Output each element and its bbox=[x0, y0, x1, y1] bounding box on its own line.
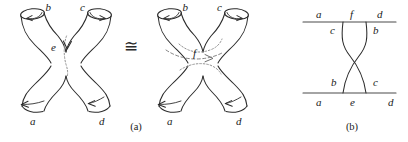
label-d-left-surface: d bbox=[99, 115, 105, 127]
leg-bottom-left-wall-outer bbox=[22, 66, 51, 106]
rim-bottom-left bbox=[22, 106, 43, 112]
rim-bottom-right bbox=[89, 106, 110, 112]
caption-b: (b) bbox=[346, 121, 359, 133]
figure-canvas: e b c a d ≅ bbox=[0, 0, 408, 142]
leg2-bottom-right-wall-inner bbox=[203, 76, 225, 111]
leg-top-right-wall-outer bbox=[81, 16, 111, 63]
label-a-top: a bbox=[316, 8, 322, 20]
leg2-bottom-right-wall-outer bbox=[218, 66, 247, 106]
label-e-bottom: e bbox=[350, 96, 355, 108]
label-b-left-surface: b bbox=[46, 1, 52, 13]
leg-top-left-wall-outer bbox=[21, 16, 51, 63]
label-e-left-surface: e bbox=[51, 41, 56, 53]
label-a-bottom: a bbox=[316, 96, 322, 108]
label-f-right-surface: f bbox=[193, 47, 198, 59]
leg2-bottom-left-wall-outer bbox=[159, 66, 188, 106]
surface-left: e b c a d bbox=[20, 1, 112, 127]
cut-curve-e bbox=[64, 36, 67, 76]
label-d-top: d bbox=[377, 8, 383, 20]
rim2-bottom-left bbox=[159, 106, 180, 112]
label-c-above-bottom: c bbox=[373, 76, 378, 88]
label-b-above-bottom: b bbox=[331, 76, 337, 88]
leg2-top-right-wall-outer bbox=[218, 16, 248, 63]
leg-bottom-right-wall-outer bbox=[81, 66, 110, 106]
leg2-top-left-wall-outer bbox=[158, 16, 188, 63]
label-a-right-surface: a bbox=[167, 115, 173, 127]
rim2-arrow-top-right-head bbox=[237, 16, 243, 21]
rim-arrow-top-right-head bbox=[100, 16, 106, 21]
label-d-bottom: d bbox=[388, 96, 394, 108]
label-a-left-surface: a bbox=[30, 115, 36, 127]
caption-a: (a) bbox=[130, 121, 142, 133]
label-c-under-top: c bbox=[330, 24, 335, 36]
label-d-right-surface: d bbox=[236, 115, 242, 127]
rim2-bottom-right bbox=[226, 106, 247, 112]
bowtie-graph: a f d c b b c a e d bbox=[303, 8, 396, 108]
label-b-under-top: b bbox=[373, 24, 379, 36]
leg-bottom-left-wall-inner bbox=[44, 76, 66, 111]
leg2-top-right-wall-inner bbox=[203, 13, 225, 52]
rim-arrow-top-left-head bbox=[27, 16, 33, 21]
figure-root: e b c a d ≅ bbox=[0, 0, 408, 142]
label-c-left-surface: c bbox=[80, 1, 85, 13]
surface-right: f b c a d bbox=[157, 1, 249, 127]
label-c-right-surface: c bbox=[217, 1, 222, 13]
label-f-top: f bbox=[350, 8, 355, 20]
congruent-symbol: ≅ bbox=[124, 37, 138, 56]
leg2-top-left-wall-inner bbox=[181, 13, 203, 52]
leg2-bottom-left-wall-inner bbox=[181, 76, 203, 111]
leg-bottom-right-wall-inner bbox=[66, 76, 88, 111]
label-b-right-surface: b bbox=[183, 1, 189, 13]
rim2-arrow-top-left-head bbox=[164, 16, 170, 21]
